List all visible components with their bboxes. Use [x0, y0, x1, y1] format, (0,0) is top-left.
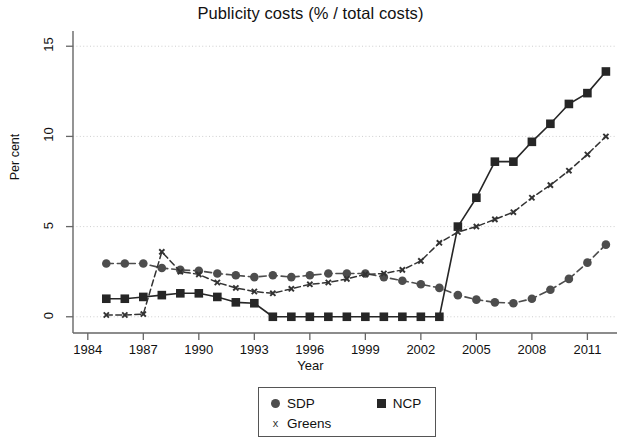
x-tick-label: 1993 [231, 342, 277, 357]
chart-legend: SDP NCP x Greens [258, 387, 436, 437]
legend-label-greens: Greens [287, 416, 331, 431]
x-tick-label: 2005 [453, 342, 499, 357]
y-tick-label: 0 [41, 303, 56, 327]
y-tick-label: 5 [41, 213, 56, 237]
legend-row-top: SDP NCP [271, 396, 437, 411]
legend-item-sdp: SDP [271, 396, 315, 411]
x-tick-label: 1984 [65, 342, 111, 357]
x-tick-label: 1990 [176, 342, 222, 357]
series-line-ncp [106, 71, 606, 316]
plot-area [0, 0, 621, 439]
x-tick-label: 1996 [287, 342, 333, 357]
legend-item-greens: x Greens [271, 416, 331, 431]
y-tick-label: 10 [41, 123, 56, 147]
square-marker-icon [377, 399, 386, 408]
legend-label-ncp: NCP [393, 396, 422, 411]
x-tick-label: 2011 [564, 342, 610, 357]
x-marker-icon: x [271, 419, 280, 428]
x-tick-label: 2002 [398, 342, 444, 357]
legend-label-sdp: SDP [287, 396, 315, 411]
x-tick-label: 1999 [342, 342, 388, 357]
series-markers-ncp [102, 67, 610, 321]
circle-marker-icon [271, 399, 280, 408]
chart-figure: Publicity costs (% / total costs) Per ce… [0, 0, 621, 439]
y-tick-label: 15 [41, 33, 56, 57]
legend-item-ncp: NCP [377, 396, 422, 411]
series-line-greens [106, 136, 606, 315]
legend-row-bottom: x Greens [271, 416, 347, 431]
x-tick-label: 2008 [509, 342, 555, 357]
x-tick-label: 1987 [120, 342, 166, 357]
